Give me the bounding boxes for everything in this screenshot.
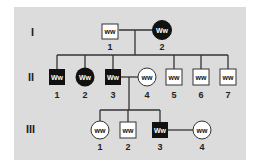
svg-text:ww: ww	[168, 74, 180, 81]
individual-II-7: ww 7	[220, 69, 236, 100]
svg-text:3: 3	[157, 142, 162, 152]
svg-text:ww: ww	[94, 127, 106, 134]
generation-label-II: II	[28, 71, 34, 83]
svg-text:Ww: Ww	[156, 27, 169, 34]
individual-III-2: ww 2	[120, 122, 136, 152]
svg-text:4: 4	[199, 142, 204, 152]
svg-text:ww: ww	[195, 74, 207, 81]
svg-text:ww: ww	[104, 28, 116, 35]
svg-text:1: 1	[54, 90, 59, 100]
pedigree-chart: I II III ww 1 Ww 2 Ww 1 Ww 2 Ww 3 ww 4 w…	[0, 0, 255, 168]
svg-text:7: 7	[225, 90, 230, 100]
svg-text:ww: ww	[141, 74, 153, 81]
svg-text:2: 2	[159, 42, 164, 52]
svg-text:2: 2	[82, 90, 87, 100]
svg-text:2: 2	[125, 142, 130, 152]
individual-III-4: ww 4	[193, 121, 211, 152]
svg-text:Ww: Ww	[107, 74, 120, 81]
individual-II-6: ww 6	[193, 69, 209, 100]
svg-text:1: 1	[107, 42, 112, 52]
generation-label-I: I	[31, 26, 34, 38]
svg-text:Ww: Ww	[154, 127, 167, 134]
svg-text:4: 4	[144, 90, 149, 100]
individual-III-3: Ww 3	[152, 122, 168, 152]
generation-label-III: III	[26, 123, 35, 135]
individual-I-2: Ww 2	[153, 21, 172, 53]
individual-I-1: ww 1	[102, 24, 118, 52]
svg-text:3: 3	[110, 90, 115, 100]
svg-text:1: 1	[97, 142, 102, 152]
svg-text:ww: ww	[196, 127, 208, 134]
svg-text:5: 5	[171, 90, 176, 100]
individual-II-5: ww 5	[166, 69, 182, 100]
individual-II-1: Ww 1	[49, 69, 65, 100]
svg-text:6: 6	[198, 90, 203, 100]
individual-II-2: Ww 2	[76, 68, 95, 101]
individual-II-3: Ww 3	[105, 69, 121, 100]
individual-II-4: ww 4	[138, 68, 156, 100]
svg-text:ww: ww	[122, 127, 134, 134]
svg-text:Ww: Ww	[79, 74, 92, 81]
individual-III-1: ww 1	[91, 121, 109, 152]
svg-text:ww: ww	[222, 74, 234, 81]
svg-text:Ww: Ww	[51, 74, 64, 81]
